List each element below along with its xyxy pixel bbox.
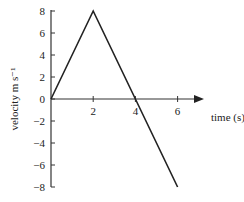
y-tick-label: 6 xyxy=(40,27,46,39)
x-axis-title: time (s) xyxy=(211,111,244,124)
y-tick-label: 0 xyxy=(40,93,46,105)
y-tick-label: −6 xyxy=(33,159,45,171)
x-axis: 246 xyxy=(51,95,204,117)
y-tick-label: −2 xyxy=(33,115,45,127)
y-tick-label: −8 xyxy=(33,181,45,193)
x-tick-label: 2 xyxy=(90,105,96,117)
x-tick-label: 6 xyxy=(175,105,181,117)
y-tick-label: 2 xyxy=(40,71,46,83)
x-axis-arrow-icon xyxy=(194,95,204,103)
velocity-time-chart: 86420−2−4−6−8 246 time (s) velocity m s⁻… xyxy=(0,0,244,202)
x-tick-label: 4 xyxy=(133,105,139,117)
y-axis-title: velocity m s⁻¹ xyxy=(8,67,20,130)
y-tick-label: −4 xyxy=(33,137,45,149)
y-tick-label: 8 xyxy=(40,5,46,17)
y-tick-label: 4 xyxy=(40,49,46,61)
